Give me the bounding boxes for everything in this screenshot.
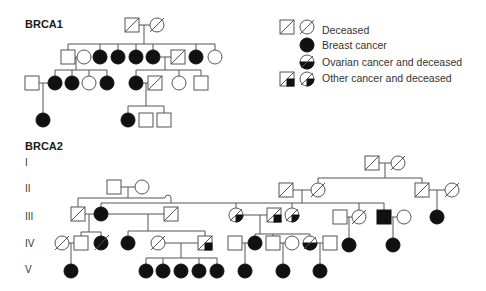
legend-symbols (280, 20, 314, 86)
pedigree-figure: BRCA1 BRCA2 I II III IV V Deceased Breas… (0, 0, 486, 291)
brca2-pedigree (55, 156, 459, 278)
brca1-pedigree (25, 18, 222, 127)
legend-circle-filled-icon (300, 38, 314, 52)
legend-circle-deceased-icon (300, 20, 314, 34)
legend-circle-other-icon (300, 72, 314, 86)
pedigree-svg (0, 0, 486, 291)
legend-square-other-icon (280, 72, 294, 86)
legend-square-deceased-icon (280, 20, 294, 34)
legend-circle-ovarian-icon (300, 55, 314, 69)
